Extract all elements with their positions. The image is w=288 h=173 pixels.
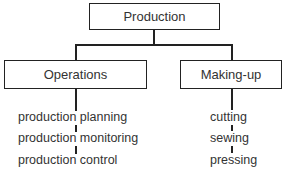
list-item-pressing: pressing bbox=[210, 153, 257, 167]
connector-root-down bbox=[153, 30, 155, 45]
list-item-production-monitoring: production monitoring bbox=[18, 131, 138, 145]
connector-to-operations bbox=[75, 44, 77, 60]
list-item-cutting: cutting bbox=[210, 110, 247, 124]
list-item-production-planning: production planning bbox=[18, 110, 127, 124]
connector-operations-down bbox=[75, 89, 77, 111]
root-label: Production bbox=[123, 9, 185, 24]
branch-label-making-up: Making-up bbox=[201, 67, 262, 82]
connector-making-up-down bbox=[231, 89, 233, 110]
root-box-production: Production bbox=[89, 3, 220, 30]
branch-label-operations: Operations bbox=[44, 67, 108, 82]
connector-making-up-item-2 bbox=[231, 146, 233, 153]
branch-box-making-up: Making-up bbox=[180, 60, 282, 89]
branch-box-operations: Operations bbox=[4, 60, 147, 89]
connector-to-making-up bbox=[231, 44, 233, 60]
list-item-production-control: production control bbox=[18, 153, 117, 167]
connector-horizontal bbox=[75, 44, 232, 46]
list-item-sewing: sewing bbox=[210, 131, 249, 145]
